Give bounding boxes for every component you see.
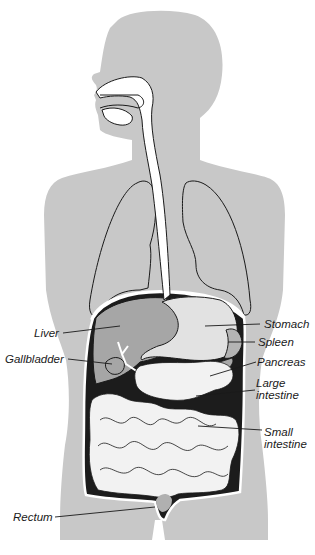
gallbladder-label: Gallbladder <box>5 353 64 365</box>
small-intestine-label: Small intestine <box>264 426 307 450</box>
rectum-label: Rectum <box>13 511 53 523</box>
liver-label: Liver <box>34 327 59 339</box>
spleen-label: Spleen <box>258 336 294 348</box>
pancreas-label: Pancreas <box>257 356 306 368</box>
gallbladder <box>105 358 124 375</box>
digestive-system-diagram <box>0 0 315 555</box>
large-intestine-label: Large intestine <box>256 377 299 401</box>
stomach-label: Stomach <box>264 318 309 330</box>
